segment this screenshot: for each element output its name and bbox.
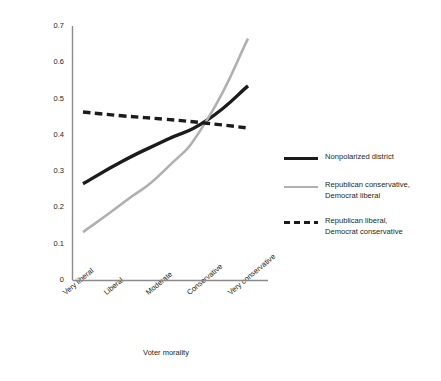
legend-item-rep-cons-dem-lib: Republican conservative, Democrat libera… [284, 180, 436, 201]
legend-label-rep-lib-dem-cons: Republican liberal, Democrat conservativ… [325, 216, 403, 237]
chart-figure: Probability (vote Republican) Voter mora… [0, 0, 441, 381]
legend: Nonpolarized district Republican conserv… [284, 152, 436, 252]
legend-label-line1: Republican liberal, [325, 216, 403, 227]
legend-label-nonpolarized: Nonpolarized district [325, 152, 394, 163]
legend-label-line1: Republican conservative, [325, 180, 410, 191]
legend-swatch-solid-black-icon [284, 153, 318, 165]
legend-label-line1: Nonpolarized district [325, 152, 394, 163]
legend-item-nonpolarized: Nonpolarized district [284, 152, 436, 165]
series-line-1 [83, 39, 248, 232]
series-lines [83, 39, 248, 232]
legend-item-rep-lib-dem-cons: Republican liberal, Democrat conservativ… [284, 216, 436, 237]
legend-label-line2: Democrat conservative [325, 227, 403, 238]
legend-label-line2: Democrat liberal [325, 191, 410, 202]
legend-label-rep-cons-dem-lib: Republican conservative, Democrat libera… [325, 180, 410, 201]
legend-swatch-dashed-black-icon [284, 217, 318, 229]
legend-swatch-solid-gray-icon [284, 181, 318, 193]
series-line-2 [83, 112, 248, 128]
